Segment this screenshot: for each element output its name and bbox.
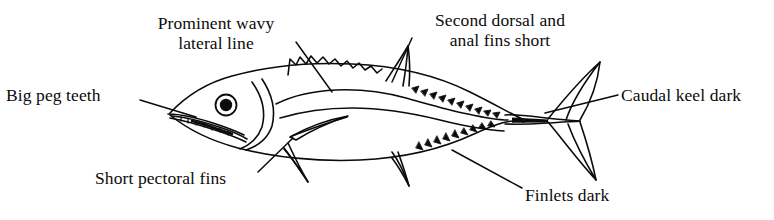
gill-cover-inner-line [240,82,264,149]
pectoral-fin-inner-line [292,117,347,136]
label-second-dorsal-and-anal-fins-short: Second dorsal and anal fins short [410,10,590,50]
second-dorsal-fin-trailing [408,46,410,86]
caudal-fin-upper-lobe [548,62,600,120]
leader-line-finlets-dark [452,150,522,188]
ventral-finlets [416,121,495,150]
dorsal-finlets [412,86,500,118]
pelvic-fin-trailing [284,149,308,182]
gill-cover-line [246,79,274,150]
second-dorsal-fin [386,46,408,86]
eye-pupil [220,99,232,111]
fish-identification-figure: Prominent wavy lateral line Second dorsa… [0,0,774,220]
body-outline-ventral [170,115,524,160]
leader-line-caudal-keel [545,95,618,113]
leader-line-short-pectoral-fins [258,138,293,172]
label-short-pectoral-fins: Short pectoral fins [95,168,265,188]
label-prominent-wavy-lateral-line: Prominent wavy lateral line [128,13,304,53]
label-caudal-keel-dark: Caudal keel dark [621,85,771,105]
label-finlets-dark: Finlets dark [525,185,665,205]
label-big-peg-teeth: Big peg teeth [6,85,138,105]
